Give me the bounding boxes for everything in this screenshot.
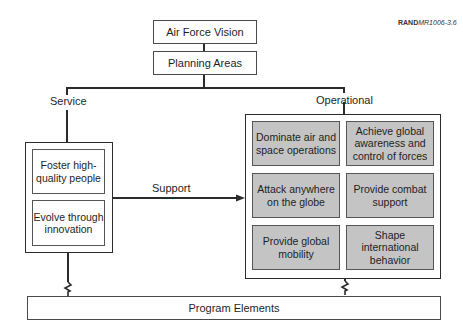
op-item-label: Provide global mobility (253, 235, 339, 260)
program-elements-box: Program Elements (27, 296, 441, 320)
planning-areas-label: Planning Areas (168, 57, 242, 70)
op-item-attack-anywhere: Attack anywhere on the globe (252, 173, 340, 218)
operational-label: Operational (316, 94, 373, 106)
op-item-global-mobility: Provide global mobility (252, 225, 340, 270)
support-label: Support (152, 182, 191, 194)
service-item-label: Foster high-quality people (33, 159, 104, 184)
air-force-vision-label: Air Force Vision (166, 26, 243, 39)
service-label: Service (50, 95, 87, 107)
op-item-label: Achieve global awareness and control of … (347, 125, 433, 163)
figure-id: RANDMR1006-3.6 (398, 19, 457, 26)
figure-id-number: MR1006-3.6 (418, 19, 457, 26)
op-item-label: Shape international behavior (347, 229, 433, 267)
op-item-global-awareness: Achieve global awareness and control of … (346, 121, 434, 166)
op-item-label: Provide combat support (347, 183, 433, 208)
op-item-combat-support: Provide combat support (346, 173, 434, 218)
service-item-evolve-innovation: Evolve through innovation (32, 200, 105, 246)
service-item-label: Evolve through innovation (33, 211, 104, 236)
op-item-label: Dominate air and space operations (253, 131, 339, 156)
op-item-dominate-air-space: Dominate air and space operations (252, 121, 340, 166)
program-elements-label: Program Elements (188, 302, 279, 315)
figure-id-prefix: RAND (398, 19, 418, 26)
planning-areas-box: Planning Areas (153, 51, 257, 75)
op-item-label: Attack anywhere on the globe (253, 183, 339, 208)
service-item-foster-people: Foster high-quality people (32, 149, 105, 194)
air-force-vision-box: Air Force Vision (153, 20, 257, 44)
op-item-shape-behavior: Shape international behavior (346, 225, 434, 270)
